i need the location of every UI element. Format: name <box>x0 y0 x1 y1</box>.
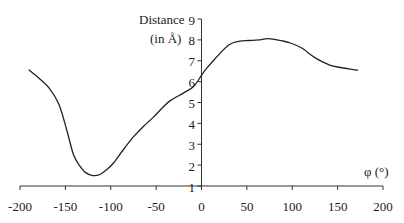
y-tick-label: 8 <box>183 34 195 47</box>
x-tick-label: -200 <box>8 200 32 213</box>
y-tick-label: 2 <box>183 159 195 172</box>
x-axis-label: φ (°) <box>364 165 389 178</box>
x-tick-label: -150 <box>53 200 77 213</box>
y-axis-label-line2: (in Å) <box>150 32 181 45</box>
y-axis-label-line1: Distance <box>139 13 184 26</box>
x-tick-label: 150 <box>328 200 348 213</box>
x-tick-label: 200 <box>373 200 393 213</box>
x-tick-label: -100 <box>99 200 123 213</box>
x-tick-label: 100 <box>283 200 303 213</box>
y-tick-label: 4 <box>183 117 195 130</box>
y-tick-label: 1 <box>183 180 195 193</box>
x-tick-label: 0 <box>198 200 205 213</box>
y-tick-label: 3 <box>183 138 195 151</box>
axes <box>20 19 383 190</box>
y-tick-label: 7 <box>183 55 195 68</box>
line-chart <box>0 0 404 223</box>
y-tick-label: 5 <box>183 97 195 110</box>
y-tick-label: 9 <box>183 13 195 26</box>
x-tick-label: 50 <box>240 200 253 213</box>
y-tick-label: 6 <box>183 76 195 89</box>
x-tick-label: -50 <box>147 200 164 213</box>
